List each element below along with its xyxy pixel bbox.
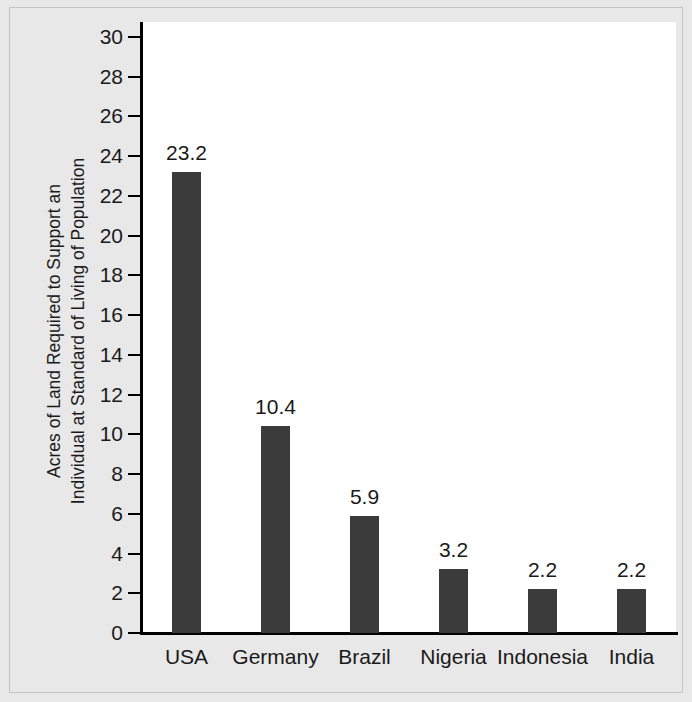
y-axis-title-line-2: Individual at Standard of Living of Popu…: [66, 51, 90, 611]
bar-group: [587, 22, 676, 633]
y-axis-tick-label: 30: [63, 26, 123, 47]
bar-value-label: 5.9: [320, 486, 409, 507]
bar: [350, 516, 379, 633]
bar-value-label: 10.4: [231, 396, 320, 417]
y-axis-tick-mark: [128, 155, 141, 157]
bar: [617, 589, 646, 633]
y-axis-tick-label: 2: [63, 582, 123, 603]
y-axis-tick-mark: [128, 274, 141, 276]
y-axis-tick-label: 14: [63, 344, 123, 365]
y-axis-tick-label: 28: [63, 66, 123, 87]
y-axis-tick-label: 20: [63, 225, 123, 246]
y-axis-tick-mark: [128, 632, 141, 634]
y-axis-tick-mark: [128, 36, 141, 38]
y-axis-tick-label: 6: [63, 503, 123, 524]
bar-value-label: 3.2: [409, 539, 498, 560]
y-axis-tick-label: 24: [63, 145, 123, 166]
y-axis-tick-mark: [128, 592, 141, 594]
y-axis-tick-label: 8: [63, 463, 123, 484]
y-axis-tick-mark: [128, 235, 141, 237]
bar-group: [320, 22, 409, 633]
y-axis-tick-label: 0: [63, 622, 123, 643]
y-axis-title: Acres of Land Required to Support an Ind…: [42, 51, 90, 611]
bar: [172, 172, 201, 633]
y-axis-tick-mark: [128, 433, 141, 435]
y-axis-title-line-1: Acres of Land Required to Support an: [42, 51, 66, 611]
bar-group: [142, 22, 231, 633]
y-axis-tick-label: 10: [63, 423, 123, 444]
bar: [261, 426, 290, 633]
y-axis-tick-mark: [128, 394, 141, 396]
y-axis-tick-mark: [128, 314, 141, 316]
y-axis-tick-label: 22: [63, 185, 123, 206]
bar: [528, 589, 557, 633]
y-axis-tick-mark: [128, 354, 141, 356]
bar-value-label: 2.2: [498, 559, 587, 580]
x-axis-label: India: [572, 646, 692, 667]
y-axis-tick-mark: [128, 76, 141, 78]
bar-group: [498, 22, 587, 633]
y-axis-tick-label: 4: [63, 543, 123, 564]
y-axis-tick-mark: [128, 473, 141, 475]
chart-figure: Acres of Land Required to Support an Ind…: [0, 0, 692, 702]
bar: [439, 569, 468, 633]
y-axis-tick-mark: [128, 513, 141, 515]
y-axis-tick-label: 12: [63, 384, 123, 405]
y-axis-tick-label: 16: [63, 304, 123, 325]
bar-group: [231, 22, 320, 633]
y-axis-tick-mark: [128, 553, 141, 555]
y-axis-tick-mark: [128, 115, 141, 117]
y-axis-tick-mark: [128, 195, 141, 197]
bar-value-label: 2.2: [587, 559, 676, 580]
y-axis-tick-label: 26: [63, 105, 123, 126]
bar-value-label: 23.2: [142, 142, 231, 163]
y-axis-tick-label: 18: [63, 264, 123, 285]
